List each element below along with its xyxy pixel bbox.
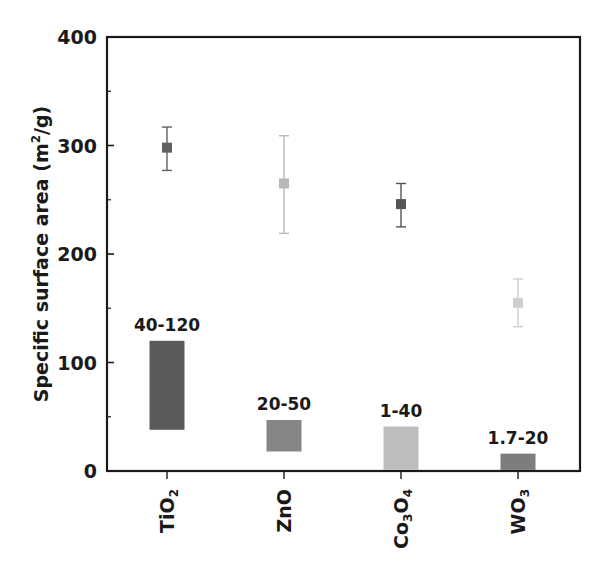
y-axis-ticks: 0100200300400: [57, 26, 114, 482]
x-category-label: Co3O4: [390, 489, 415, 549]
square-marker: [162, 143, 172, 153]
point-tio2: [162, 127, 172, 170]
range-bar-tio2: [150, 341, 185, 430]
y-tick-label: 200: [57, 243, 97, 265]
point-co3o4: [396, 183, 406, 226]
y-axis-title: Specific surface area (m2/g): [29, 106, 52, 403]
y-tick-label: 300: [57, 135, 97, 157]
y-tick-label: 400: [57, 26, 97, 48]
data-points: [162, 127, 523, 327]
square-marker: [396, 199, 406, 209]
range-bars: 40-12020-501-401.7-20: [134, 315, 549, 470]
range-bar-zno: [267, 420, 302, 451]
x-axis-ticks: TiO2ZnOCo3O4WO3: [156, 471, 532, 549]
point-wo3: [513, 279, 523, 327]
x-category-label: ZnO: [273, 489, 295, 532]
range-bar-label: 1.7-20: [488, 428, 549, 448]
square-marker: [513, 298, 523, 308]
y-tick-label: 100: [57, 352, 97, 374]
point-zno: [279, 136, 289, 234]
range-bar-label: 1-40: [380, 401, 423, 421]
chart: 0100200300400 40-12020-501-401.7-20 TiO2…: [0, 0, 603, 581]
range-bar-wo3: [501, 454, 536, 470]
range-bar-label: 40-120: [134, 315, 200, 335]
y-tick-label: 0: [84, 460, 97, 482]
square-marker: [279, 178, 289, 188]
range-bar-label: 20-50: [257, 394, 312, 414]
range-bar-co3o4: [384, 427, 419, 470]
x-category-label: TiO2: [156, 489, 181, 533]
x-category-label: WO3: [507, 489, 532, 534]
